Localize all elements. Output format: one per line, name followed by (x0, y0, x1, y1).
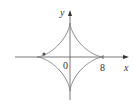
x-value-8-label: 8 (100, 62, 105, 73)
diagram-canvas: y 0 8 x (0, 0, 135, 104)
x-axis-label: x (123, 62, 129, 73)
x-axis-arrow-icon (123, 55, 129, 59)
astroid-diagram: y 0 8 x (0, 0, 135, 104)
marked-point (42, 52, 45, 55)
y-axis-arrow-icon (68, 10, 72, 16)
origin-label: 0 (63, 60, 68, 71)
y-axis-label: y (59, 7, 65, 18)
